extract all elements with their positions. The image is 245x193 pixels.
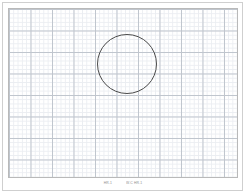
graph-paper-page: HR.1 W.C HR.1: [0, 0, 245, 193]
grid-frame: [8, 8, 238, 178]
caption-right-label: W.C HR.1: [126, 181, 142, 187]
graph-paper-grid: [9, 9, 237, 177]
caption-left-label: HR.1: [104, 181, 112, 187]
caption: HR.1 W.C HR.1: [8, 181, 238, 191]
